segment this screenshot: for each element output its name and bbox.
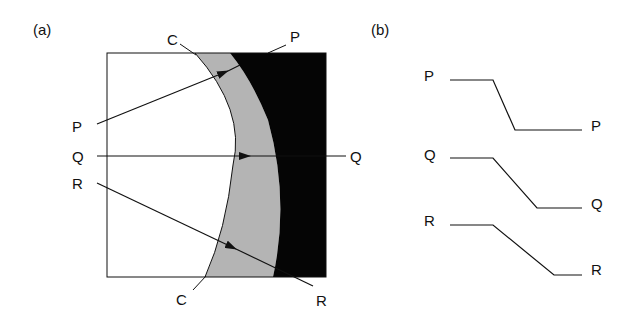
ray-q-left-label: Q (72, 148, 84, 165)
profile-r-right-label: R (591, 261, 602, 278)
ray-p-right-label: P (290, 28, 300, 45)
c-bottom-leader (193, 276, 206, 290)
ray-r-right-label: R (316, 292, 327, 309)
profile-q-line (450, 158, 582, 208)
profile-q-left-label: Q (424, 146, 436, 163)
figure: (a) C C P P Q Q R R (b) (0, 0, 639, 328)
c-bottom-label: C (176, 291, 187, 308)
panel-b-label: (b) (371, 21, 389, 38)
c-top-label: C (167, 31, 178, 48)
panel-a-label: (a) (33, 21, 51, 38)
profile-r-left-label: R (424, 212, 435, 229)
ray-r-left-label: R (72, 175, 83, 192)
profile-r-line (450, 225, 582, 275)
panel-a: (a) C C P P Q Q R R (33, 21, 362, 309)
panel-b: (b) P P Q Q R R (371, 21, 603, 278)
ray-p-exit-leader (268, 45, 286, 53)
profile-q-right-label: Q (591, 195, 603, 212)
ray-p-left-label: P (72, 118, 82, 135)
profile-p-line (450, 80, 582, 130)
profile-p-right-label: P (591, 117, 601, 134)
ray-q-right-label: Q (350, 148, 362, 165)
profile-p-left-label: P (424, 67, 434, 84)
